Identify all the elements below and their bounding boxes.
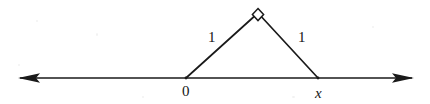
vertex-x-dot	[317, 77, 320, 80]
geometry-figure: 1 1 0 x	[0, 0, 430, 104]
triangle-left-leg	[186, 13, 258, 78]
triangle-right-leg	[258, 13, 318, 78]
left-leg-length-label: 1	[208, 30, 216, 45]
right-leg-length-label: 1	[298, 30, 306, 45]
origin-point-label: 0	[182, 84, 190, 99]
vertex-origin-dot	[185, 77, 188, 80]
figure-canvas	[0, 0, 430, 104]
variable-point-label: x	[315, 86, 322, 101]
right-angle-square-icon	[252, 9, 263, 21]
